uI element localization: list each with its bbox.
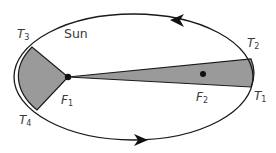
t4-sub: 4 [26, 119, 31, 128]
f2-sub: 2 [203, 96, 208, 105]
label-t3: T3 [17, 28, 29, 42]
t2-sub: 2 [254, 42, 259, 51]
arrow-top-left-icon [170, 14, 184, 27]
sun-text: Sun [64, 26, 88, 41]
label-sun: Sun [64, 28, 88, 41]
shaded-sector-aphelion-side [68, 59, 254, 87]
focus-f1-sun-dot [65, 74, 71, 80]
focus-f2-dot [200, 71, 206, 77]
label-t4: T4 [19, 114, 31, 128]
label-t1: T1 [254, 90, 266, 104]
f2-letter: F [196, 90, 203, 104]
orbit-svg [0, 0, 276, 153]
t3-sub: 3 [24, 33, 29, 42]
label-f2: F2 [196, 91, 208, 105]
kepler-orbit-diagram: Sun T3 T2 T1 T4 F1 F2 [0, 0, 276, 153]
f1-letter: F [61, 93, 68, 107]
label-f1: F1 [61, 94, 73, 108]
t1-sub: 1 [261, 95, 266, 104]
f1-sub: 1 [68, 99, 73, 108]
label-t2: T2 [247, 37, 259, 51]
